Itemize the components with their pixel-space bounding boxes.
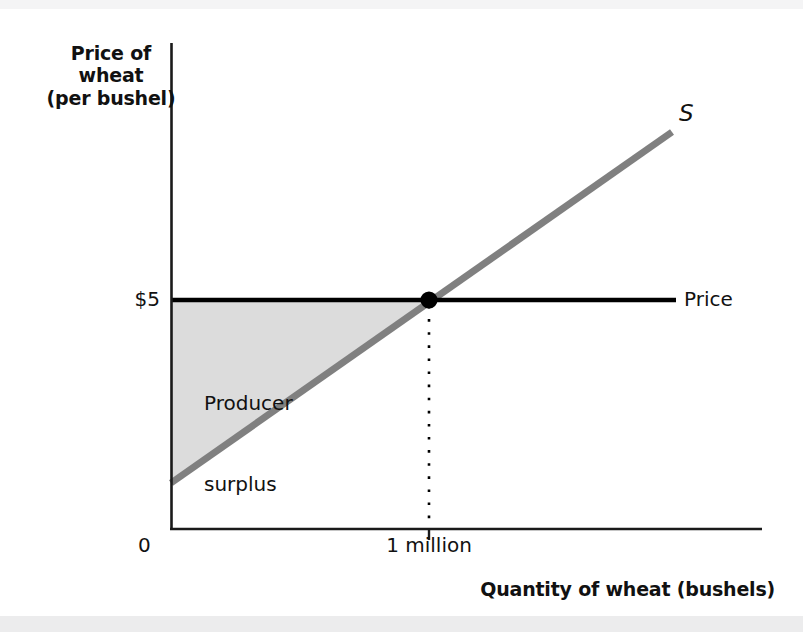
y-axis-title: Price of wheat (per bushel) — [36, 42, 186, 109]
x-axis-origin-label: 0 — [138, 534, 151, 558]
supply-curve-label: S — [679, 100, 694, 127]
producer-surplus-label-line2: surplus — [204, 471, 293, 498]
x-axis-title: Quantity of wheat (bushels) — [390, 578, 775, 600]
price-line-label: Price — [684, 288, 733, 312]
equilibrium-point — [420, 291, 437, 308]
producer-surplus-label-line1: Producer — [204, 390, 293, 417]
producer-surplus-figure: Price of wheat (per bushel) Quantity of … — [0, 0, 803, 632]
x-axis-tick-label-quantity: 1 million — [359, 534, 499, 558]
y-axis-tick-label-price: $5 — [108, 288, 160, 312]
producer-surplus-label: Producer surplus — [204, 336, 293, 552]
